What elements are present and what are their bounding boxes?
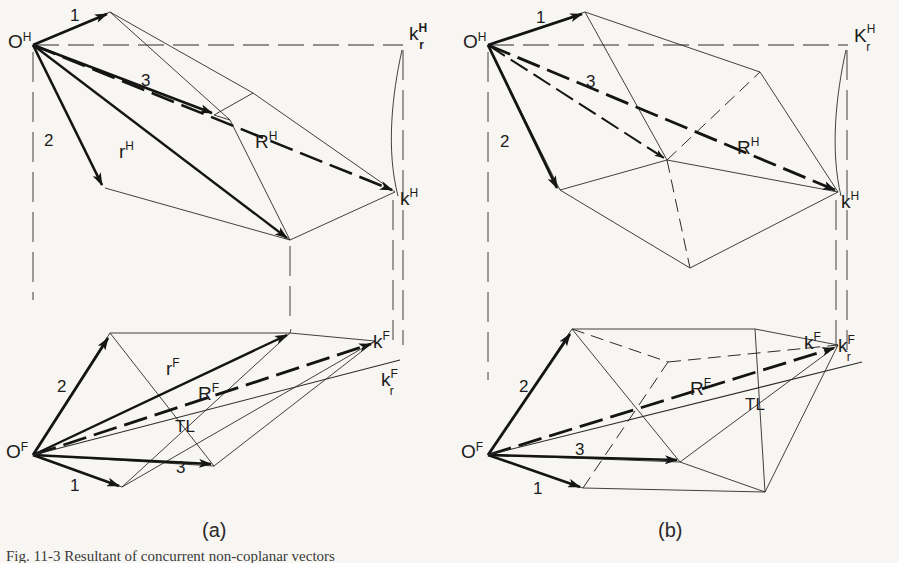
panel-a-front-revolved-sup: F [391,367,398,381]
panel-b-caption: (b) [658,519,682,541]
panel-a-front-partial-resultant-sup: F [172,356,179,370]
panel-a-top-vector-3-label: 3 [141,71,150,90]
panel-a-front-terminus-sup: F [383,329,390,343]
panel-b-front-vector-1-label: 1 [533,479,542,498]
panel-b-top-origin-sup: H [478,30,487,44]
panel-b-top-vector-3-label: 3 [586,72,595,91]
panel-b-top-resultant-sup: H [751,135,760,149]
panel-b-front-vector-2-label: 2 [519,377,528,396]
panel-a-top-origin-sup: H [23,30,32,44]
panel-a-front-origin-sup: F [21,440,28,454]
panel-b-front-vector-3-label: 3 [575,440,584,459]
panel-b-top-revolved-sup: H [867,22,876,36]
panel-a-top-vector-1-label: 1 [70,6,79,25]
panel-a-top-resultant-sup: H [269,129,278,143]
panel-a-front-revolved-sub: r [390,384,394,398]
panel-b-top-terminus-sup: H [851,189,860,203]
descriptive-geometry-figure: OH 1 2 3 rH RH kH kHr [0,0,899,563]
panel-a-front-vector-3-label: 3 [176,458,185,477]
panel-a-true-length-label: TL [175,417,195,436]
panel-b-true-length-label: TL [745,395,765,414]
panel-b-front-terminus-sup: F [814,330,821,344]
panel-b-front-revolved-sup: F [848,333,855,347]
panel-a-front-vector-1-label: 1 [70,476,79,495]
panel-b-front-revolved-sub: r [847,350,851,364]
panel-a-front-vector-2-label: 2 [57,377,66,396]
panel-a-top-vector-2-label: 2 [44,131,53,150]
panel-a-caption: (a) [202,519,226,541]
panel-a-top-terminus-sup: H [410,186,419,200]
figure-caption: Fig. 11-3 Resultant of concurrent non-co… [6,548,335,563]
panel-b-front-origin-sup: F [476,440,483,454]
panel-a-top-partial-resultant-sup: H [125,139,134,153]
panel-b-front-resultant-sup: F [704,376,711,390]
panel-a-top-revolved-sup: H [419,21,428,35]
figure-root: OH 1 2 3 rH RH kH kHr [0,0,899,563]
panel-b-top-vector-1-label: 1 [536,8,545,27]
panel-a-top-revolved-sub: r [419,38,424,52]
panel-b-top-revolved-sub: r [866,40,870,54]
panel-b-top-vector-2-label: 2 [500,132,509,151]
panel-a-front-resultant-sup: F [212,381,219,395]
